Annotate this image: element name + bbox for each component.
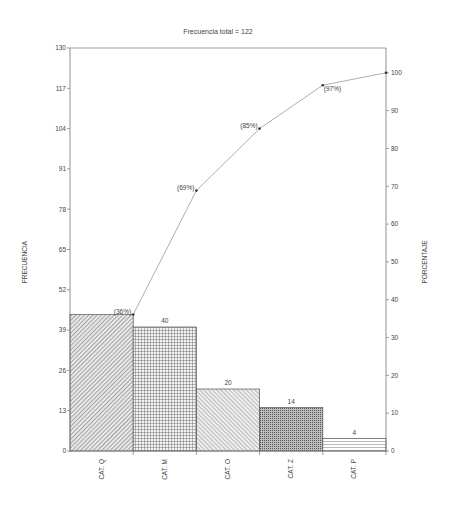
y-tick-label: 26: [59, 367, 67, 374]
bar-cat-z: [260, 408, 323, 451]
cumulative-point: [132, 313, 135, 316]
cumulative-point: [258, 127, 261, 130]
right-axis-ticks: 0102030405060708090100: [386, 69, 402, 454]
y-tick-label: 91: [59, 165, 67, 172]
y-tick-label: 117: [56, 85, 67, 92]
y2-tick-label: 50: [391, 258, 399, 265]
cumulative-percent-label: (69%): [177, 184, 194, 192]
bar-cat-q: [70, 315, 133, 451]
y-tick-label: 0: [62, 447, 66, 454]
left-axis-ticks: 013263952657891104117130: [55, 44, 70, 454]
y-axis-label: FRECUENCIA: [21, 240, 28, 283]
cumulative-percentage-line: (36%)(69%)(85%)(97%): [114, 72, 387, 316]
y2-tick-label: 0: [391, 447, 395, 454]
cumulative-percent-label: (85%): [240, 122, 257, 130]
chart-title: Frecuencia total = 122: [183, 28, 253, 35]
cumulative-point: [195, 189, 198, 192]
y2-tick-label: 100: [391, 69, 402, 76]
y-tick-label: 52: [59, 286, 67, 293]
y2-tick-label: 40: [391, 296, 399, 303]
bar-value-label: 4: [353, 429, 357, 436]
bar-cat-p: [323, 439, 386, 451]
y2-tick-label: 60: [391, 220, 399, 227]
bar-cat-o: [196, 389, 259, 451]
x-axis-category-labels: CAT. QCAT. MCAT. OCAT. ZCAT. P: [98, 451, 386, 480]
y2-tick-label: 90: [391, 107, 399, 114]
bar-cat-m: [133, 327, 196, 451]
y2-tick-label: 70: [391, 183, 399, 190]
x-category-label: CAT. Z: [287, 459, 294, 478]
x-category-label: CAT. Q: [98, 459, 106, 479]
y2-tick-label: 80: [391, 145, 399, 152]
x-category-label: CAT. O: [224, 459, 231, 479]
y-tick-label: 104: [55, 125, 66, 132]
bar-value-label: 14: [288, 398, 296, 405]
y-tick-label: 13: [59, 407, 67, 414]
pareto-chart: Frecuencia total = 122 4020144 013263952…: [0, 0, 454, 530]
y2-tick-label: 10: [391, 409, 399, 416]
y2-tick-label: 30: [391, 334, 399, 341]
bar-value-label: 20: [224, 379, 232, 386]
y-tick-label: 78: [59, 206, 67, 213]
y-tick-label: 65: [59, 246, 67, 253]
cumulative-percent-label: (36%): [114, 308, 131, 316]
y-tick-label: 130: [55, 44, 66, 51]
x-category-label: CAT. M: [161, 459, 168, 480]
x-category-label: CAT. P: [350, 459, 357, 479]
cumulative-percent-label: (97%): [324, 85, 341, 93]
bar-value-label: 40: [161, 317, 169, 324]
y2-axis-label: PORCENTAJE: [421, 240, 428, 284]
y2-tick-label: 20: [391, 372, 399, 379]
cumulative-point: [385, 72, 388, 75]
y-tick-label: 39: [59, 326, 67, 333]
